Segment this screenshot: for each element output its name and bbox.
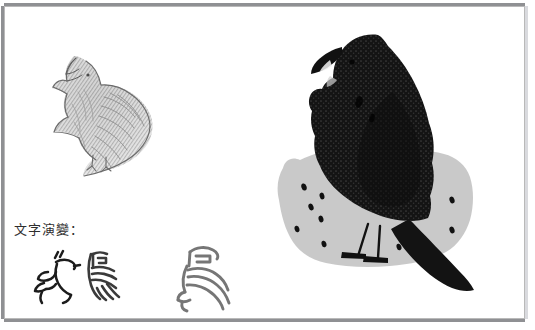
glyph-seal-script xyxy=(178,248,229,311)
crow-eye xyxy=(349,60,354,64)
artwork-canvas xyxy=(0,0,535,330)
glyph-bronze-script xyxy=(89,253,119,301)
glyph-oracle-bone-script xyxy=(35,251,80,303)
image-plate: 文字演變： xyxy=(0,0,535,330)
caption-text: 文字演變： xyxy=(14,223,84,236)
pencil-sketch-crow xyxy=(45,50,160,182)
